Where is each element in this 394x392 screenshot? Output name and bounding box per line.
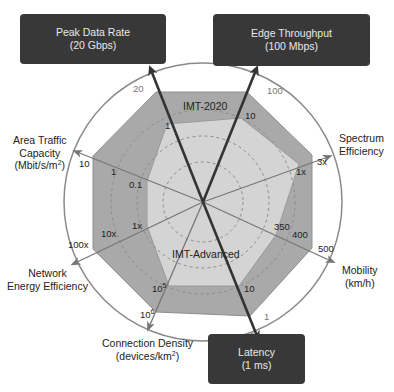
spectrum-efficiency-label: Spectrum Efficiency <box>339 132 384 157</box>
tick-energy-100x: 100x <box>68 240 89 250</box>
imt-advanced-label: IMT-Advanced <box>172 248 240 260</box>
imt-2020-label: IMT-2020 <box>183 100 227 112</box>
edge-throughput-title: Edge Throughput <box>251 27 332 40</box>
energy-efficiency-label: Network Energy Efficiency <box>7 267 88 292</box>
mobility-label: Mobility (km/h) <box>342 264 378 289</box>
latency-value: (1 ms) <box>242 359 272 372</box>
latency-title: Latency <box>238 346 275 359</box>
tick-spectrum-3x: 3x <box>317 157 327 167</box>
latency-box: Latency (1 ms) <box>208 334 305 384</box>
tick-latency-1: 1 <box>264 312 269 322</box>
tick-connection-1e6: 106 <box>140 310 154 320</box>
tick-connection-1e5: 105 <box>152 284 166 294</box>
tick-mobility-400: 400 <box>292 230 308 240</box>
tick-energy-1x: 1x <box>132 221 142 231</box>
tick-spectrum-1x: 1x <box>296 167 306 177</box>
peak-data-rate-box: Peak Data Rate (20 Gbps) <box>20 14 166 64</box>
edge-throughput-value: (100 Mbps) <box>265 40 318 53</box>
connection-density-label: Connection Density (devices/km2) <box>102 337 193 362</box>
tick-peak-20: 20 <box>133 84 144 94</box>
peak-data-rate-title: Peak Data Rate <box>56 26 130 39</box>
tick-mobility-350: 350 <box>274 222 290 232</box>
tick-area-10: 10 <box>79 159 90 169</box>
tick-edge-10: 10 <box>245 111 256 121</box>
tick-latency-10: 10 <box>244 284 255 294</box>
tick-energy-10x: 10x <box>101 229 116 239</box>
tick-area-1: 1 <box>111 167 116 177</box>
peak-data-rate-value: (20 Gbps) <box>70 39 117 52</box>
tick-area-0.1: 0.1 <box>129 180 142 190</box>
area-traffic-label: Area Traffic Capacity (Mbit/s/m2) <box>13 134 67 172</box>
tick-edge-100: 100 <box>267 86 283 96</box>
tick-mobility-500: 500 <box>318 244 334 254</box>
tick-peak-1: 1 <box>165 121 170 131</box>
edge-throughput-box: Edge Throughput (100 Mbps) <box>213 14 370 66</box>
